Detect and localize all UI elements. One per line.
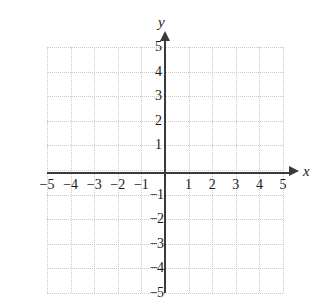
x-tick-label: 1	[185, 178, 192, 192]
x-tick-label: −3	[87, 178, 102, 192]
x-tick-label: −4	[63, 178, 78, 192]
x-tick-label: 2	[209, 178, 216, 192]
y-tick-label: 1	[150, 138, 162, 152]
y-tick-label: 4	[150, 65, 162, 79]
y-tick-label: −5	[145, 286, 163, 300]
coordinate-plane-figure: y x −5−4−3−2−11234554321−1−2−3−4−5	[0, 0, 321, 308]
x-axis-line	[47, 172, 292, 174]
grid-line-horizontal	[47, 293, 283, 294]
x-axis-label: x	[303, 164, 310, 179]
y-tick-label: 2	[150, 114, 162, 128]
y-tick-label: −3	[145, 237, 163, 251]
y-tick-label: 5	[150, 40, 162, 54]
y-tick-label: −1	[145, 188, 163, 202]
y-tick-label: −4	[145, 261, 163, 275]
y-tick-label: −2	[145, 212, 163, 226]
x-tick-label: −5	[40, 178, 55, 192]
x-axis-arrow-icon	[289, 166, 299, 176]
x-tick-label: 5	[280, 178, 287, 192]
grid-line-vertical	[283, 47, 284, 293]
y-axis-line	[164, 40, 166, 293]
x-tick-label: 3	[232, 178, 239, 192]
x-tick-label: −2	[110, 178, 125, 192]
y-axis-label: y	[158, 15, 165, 30]
y-tick-label: 3	[150, 89, 162, 103]
x-tick-label: 4	[256, 178, 263, 192]
